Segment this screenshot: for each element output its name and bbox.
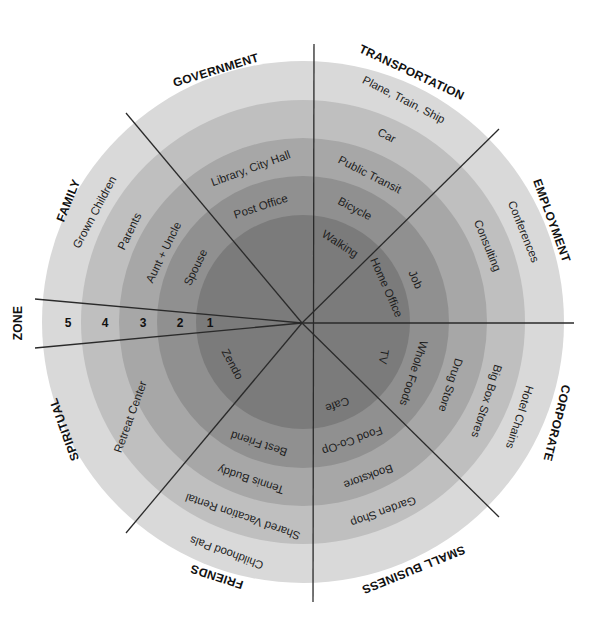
zone-axis-label: ZONE [11, 306, 25, 341]
zone-number-1: 1 [207, 316, 214, 330]
zone-number-4: 4 [102, 316, 109, 330]
zone-number-3: 3 [140, 316, 147, 330]
zone-number-5: 5 [65, 316, 72, 330]
zone-wheel-diagram: ZONE 5 4 3 2 1 GOVERNMENT TRANSPORTATION… [0, 0, 605, 638]
label-tv: TV [377, 348, 391, 365]
zone-number-2: 2 [177, 316, 184, 330]
